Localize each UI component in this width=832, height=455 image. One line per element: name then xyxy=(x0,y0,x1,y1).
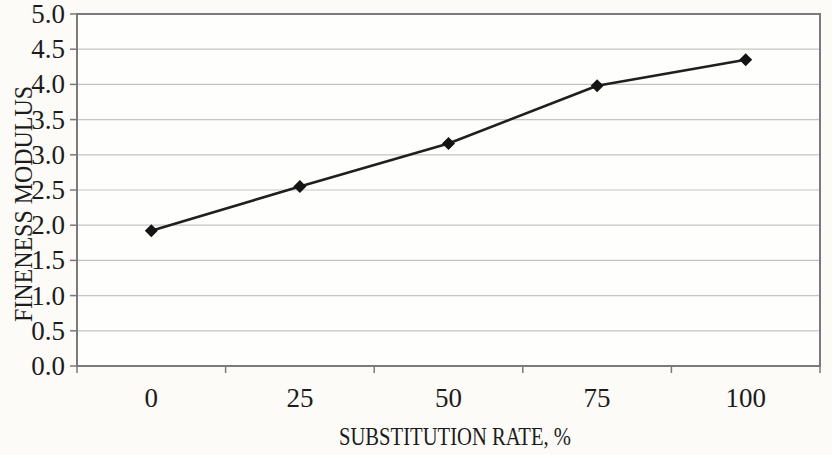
chart-generated-layer: 0.00.51.01.52.02.53.03.54.04.55.00255075… xyxy=(31,0,820,413)
y-tick-label: 0.0 xyxy=(31,351,65,381)
x-tick-label: 50 xyxy=(435,383,462,413)
y-tick-label: 4.5 xyxy=(31,34,65,64)
chart-canvas: 0.00.51.01.52.02.53.03.54.04.55.00255075… xyxy=(0,0,832,455)
x-tick-label: 100 xyxy=(725,383,766,413)
x-axis-title: SUBSTITUTION RATE, % xyxy=(339,422,571,451)
x-tick-label: 25 xyxy=(286,383,313,413)
x-tick-label: 75 xyxy=(584,383,611,413)
line-chart-figure: 0.00.51.01.52.02.53.03.54.04.55.00255075… xyxy=(0,0,832,455)
y-tick-label: 5.0 xyxy=(31,0,65,29)
x-tick-label: 0 xyxy=(145,383,159,413)
y-axis-title: FINENESS MODULUS xyxy=(9,86,38,322)
